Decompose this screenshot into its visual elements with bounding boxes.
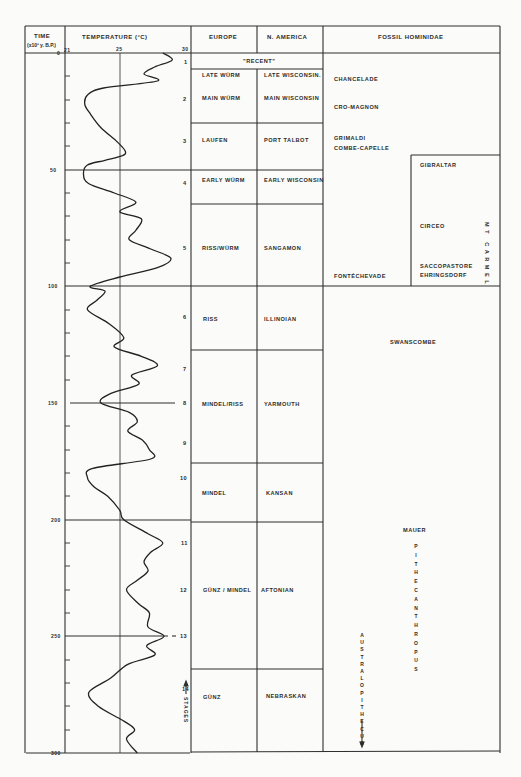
stage-11: 11 xyxy=(181,540,188,546)
fossil-gibraltar: GIBRALTAR xyxy=(420,162,457,168)
namerica-header: N. AMERICA xyxy=(267,34,307,40)
stage-14: 14 xyxy=(182,686,189,692)
temperature-label: TEMPERATURE (°C) xyxy=(82,34,148,40)
time-label: TIME xyxy=(34,33,50,39)
stage-1: 1 xyxy=(184,59,188,65)
stage-8: 8 xyxy=(183,400,187,406)
time-tick-100: 100 xyxy=(48,283,58,289)
europe-main-wurm: MAIN WÜRM xyxy=(202,95,240,101)
time-tick-50: 50 xyxy=(50,167,57,173)
namerica-early-wisconsin: EARLY WISCONSIN xyxy=(264,177,324,183)
fossil-grimaldi: GRIMALDI xyxy=(334,135,366,141)
europe-mindel: MINDEL xyxy=(202,490,226,496)
europe-riss: RISS xyxy=(203,316,218,322)
stage-7: 7 xyxy=(183,366,187,372)
namerica-port-talbot: PORT TALBOT xyxy=(264,137,309,143)
fossil-fontechevade: FONTÉCHEVADE xyxy=(334,273,386,279)
europe-early-wurm: EARLY WÜRM xyxy=(202,177,245,183)
stage-13: 13 xyxy=(180,633,187,639)
europe-header: EUROPE xyxy=(209,34,237,40)
fossil-mt-carmel: MT CARMEL xyxy=(484,222,490,287)
fossil-swanscombe: SWANSCOMBE xyxy=(390,339,436,345)
namerica-late-wisconsin: LATE WISCONSIN. xyxy=(264,72,321,78)
time-tick-200: 200 xyxy=(51,517,61,523)
fossil-australopithecus: AUSTRALOPITHECUS xyxy=(359,632,365,747)
stage-6: 6 xyxy=(183,314,187,320)
fossil-circeo: CIRCEO xyxy=(420,223,445,229)
stage-2: 2 xyxy=(183,96,187,102)
temp-tick-25: 25 xyxy=(116,46,123,52)
temp-tick-30: 30 xyxy=(182,46,189,52)
fossil-cro-magnon: CRO-MAGNON xyxy=(334,104,379,110)
stages-label: STAGES xyxy=(183,697,189,723)
time-tick-150: 150 xyxy=(48,400,58,406)
stage-4: 4 xyxy=(183,180,187,186)
stage-12: 12 xyxy=(180,587,187,593)
stage-5: 5 xyxy=(183,245,187,251)
time-tick-300: 300 xyxy=(51,750,61,756)
stage-3: 3 xyxy=(183,138,187,144)
time-tick-0: 0 xyxy=(57,50,60,56)
recent-label: "RECENT" xyxy=(243,58,275,64)
namerica-main-wisconsin: MAIN WISCONSIN xyxy=(264,95,319,101)
time-tick-250: 250 xyxy=(51,633,61,639)
fossil-pithecanthropus: PITHECANTHROPUS xyxy=(413,543,419,675)
europe-laufen: LAUFEN xyxy=(202,137,228,143)
namerica-illinoian: ILLINOIAN xyxy=(264,316,296,322)
namerica-aftonian: AFTONIAN xyxy=(261,587,294,593)
namerica-yarmouth: YARMOUTH xyxy=(264,401,300,407)
namerica-sangamon: SANGAMON xyxy=(264,245,301,251)
fossil-combe-capelle: COMBE-CAPELLE xyxy=(334,145,389,151)
europe-late-wurm: LATE WÜRM xyxy=(202,72,240,78)
fossil-mauer: MAUER xyxy=(403,527,426,533)
europe-gunz: GÜNZ xyxy=(203,694,221,700)
europe-gunz-mindel: GÜNZ / MINDEL xyxy=(203,587,251,593)
europe-mindel-riss: MINDEL/RISS xyxy=(202,401,244,407)
stage-9: 9 xyxy=(183,440,187,446)
temp-tick-21: 21 xyxy=(64,47,71,53)
namerica-nebraskan: NEBRASKAN xyxy=(266,693,306,699)
europe-riss-wurm: RISS/WÜRM xyxy=(202,245,239,251)
fossil-saccopastore: SACCOPASTORE xyxy=(420,263,473,269)
fossil-chancelade: CHANCELADE xyxy=(334,76,378,82)
stage-10: 10 xyxy=(180,475,187,481)
namerica-kansan: KANSAN xyxy=(266,490,293,496)
time-unit-label: (x10³ y. B.P.) xyxy=(27,42,56,48)
chart-frame xyxy=(0,0,521,777)
fossil-ehringsdorf: EHRINGSDORF xyxy=(420,272,467,278)
fossil-hominidae-header: FOSSIL HOMINIDAE xyxy=(378,34,444,40)
